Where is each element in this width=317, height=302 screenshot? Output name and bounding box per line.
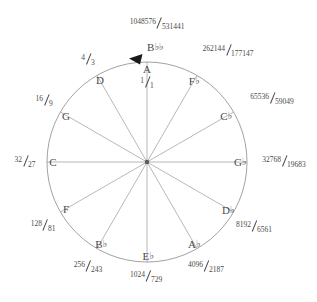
note-label-g-flat: G♭ bbox=[234, 157, 246, 168]
note-label-b-flat: B♭ bbox=[95, 239, 107, 250]
ratio-num-b-flat: 256 bbox=[74, 260, 85, 269]
spoke-g bbox=[60, 112, 147, 162]
tonic-ratio-den: 1 bbox=[150, 81, 154, 90]
spoke-db bbox=[147, 162, 234, 212]
ratio-den-c: 27 bbox=[28, 160, 36, 169]
ratio-num-g: 16 bbox=[35, 94, 43, 103]
fraction-bar-icon bbox=[145, 271, 151, 280]
fraction-bar-icon bbox=[144, 77, 150, 86]
note-label-a-flat: A♭ bbox=[188, 239, 200, 250]
fraction-bar-icon bbox=[251, 221, 257, 230]
center-hub bbox=[145, 160, 149, 164]
ratio-den-b-flat: 243 bbox=[91, 265, 102, 274]
ratio-label-e-flat: 1024729 bbox=[130, 271, 162, 283]
note-label-d-flat: D♭ bbox=[222, 205, 234, 216]
ratio-label-b-flat: 256243 bbox=[74, 261, 103, 273]
ratio-label-g: 169 bbox=[35, 95, 52, 107]
fraction-bar-icon bbox=[269, 93, 275, 102]
accidental-g-flat: ♭ bbox=[242, 156, 246, 167]
accidental-b-double-flat: ♭♭ bbox=[154, 41, 162, 52]
ratio-den-f: 81 bbox=[48, 224, 56, 233]
spoke-ab bbox=[147, 162, 197, 249]
note-label-a: A bbox=[143, 64, 151, 75]
fraction-bar-icon bbox=[225, 45, 231, 54]
fraction-bar-icon bbox=[281, 156, 287, 165]
tonic-ratio-label: 11 bbox=[140, 77, 154, 89]
ratio-num-a-flat: 4096 bbox=[188, 260, 203, 269]
ratio-den-d: 3 bbox=[91, 58, 95, 67]
ratio-num-f: 128 bbox=[31, 219, 42, 228]
ratio-label-c: 3227 bbox=[15, 156, 36, 168]
fraction-bar-icon bbox=[22, 156, 28, 165]
ratio-den-c-flat: 59049 bbox=[275, 97, 294, 106]
ratio-num-f-flat: 262144 bbox=[203, 44, 226, 53]
note-label-c: C bbox=[49, 157, 56, 168]
note-label-b-double-flat: B♭♭ bbox=[147, 42, 163, 53]
accidental-a-flat: ♭ bbox=[196, 238, 200, 249]
fraction-bar-icon bbox=[85, 54, 91, 63]
accidental-e-flat: ♭ bbox=[149, 250, 153, 261]
spoke-bb bbox=[97, 162, 147, 249]
spoke-f bbox=[60, 162, 147, 212]
ratio-label-g-flat: 3276819683 bbox=[262, 156, 306, 168]
note-label-c-flat: C♭ bbox=[220, 111, 232, 122]
fraction-bar-icon bbox=[203, 261, 209, 270]
ratio-label-d: 43 bbox=[81, 54, 95, 66]
ratio-label-f-flat: 262144177147 bbox=[203, 45, 254, 57]
note-label-e-flat: E♭ bbox=[143, 251, 154, 262]
accidental-f-flat: ♭ bbox=[195, 75, 199, 86]
ratio-label-d-flat: 81926561 bbox=[236, 221, 272, 233]
ratio-num-e-flat: 1024 bbox=[130, 270, 145, 279]
ratio-den-g: 9 bbox=[49, 99, 53, 108]
ratio-label-b-double-flat: 1048576531441 bbox=[130, 18, 185, 30]
ratio-label-c-flat: 6553659049 bbox=[250, 93, 294, 105]
fraction-bar-icon bbox=[85, 261, 91, 270]
ratio-num-d-flat: 8192 bbox=[236, 220, 251, 229]
note-label-g: G bbox=[62, 111, 70, 122]
ratio-den-d-flat: 6561 bbox=[257, 225, 272, 234]
ratio-den-g-flat: 19683 bbox=[287, 160, 306, 169]
accidental-c-flat: ♭ bbox=[228, 110, 232, 121]
fraction-bar-icon bbox=[156, 18, 162, 27]
spoke-fb bbox=[147, 75, 197, 162]
ratio-label-a-flat: 40962187 bbox=[188, 261, 224, 273]
note-label-f: F bbox=[63, 204, 69, 215]
ratio-den-e-flat: 729 bbox=[151, 275, 162, 284]
accidental-d-flat: ♭ bbox=[230, 204, 234, 215]
ratio-num-c: 32 bbox=[15, 155, 23, 164]
ratio-den-a-flat: 2187 bbox=[209, 265, 224, 274]
fraction-bar-icon bbox=[42, 220, 48, 229]
ratio-num-c-flat: 65536 bbox=[250, 92, 269, 101]
ratio-den-f-flat: 177147 bbox=[231, 49, 254, 58]
accidental-b-flat: ♭ bbox=[103, 238, 107, 249]
ratio-num-g-flat: 32768 bbox=[262, 155, 281, 164]
ratio-num-b-double-flat: 1048576 bbox=[130, 17, 156, 26]
ratio-label-f: 12881 bbox=[31, 220, 56, 232]
note-label-d: D bbox=[96, 75, 104, 86]
ratio-den-b-double-flat: 531441 bbox=[162, 22, 185, 31]
note-label-f-flat: F♭ bbox=[189, 76, 199, 87]
fraction-bar-icon bbox=[43, 95, 49, 104]
